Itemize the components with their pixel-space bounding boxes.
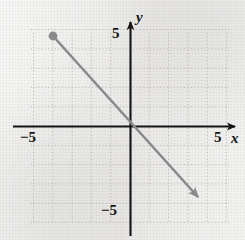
ray-segment bbox=[53, 36, 198, 197]
y-axis-tick-label-negative-5: −5 bbox=[101, 203, 117, 218]
x-axis-name-label: x bbox=[231, 131, 239, 146]
coordinate-plane bbox=[0, 0, 245, 240]
x-axis-tick-label-5: 5 bbox=[214, 130, 222, 145]
graph-figure: 5 y −5 5 x −5 bbox=[0, 0, 245, 240]
y-axis-name-label: y bbox=[136, 10, 143, 25]
closed-endpoint-dot bbox=[49, 32, 58, 41]
y-axis-tick-label-5: 5 bbox=[112, 26, 120, 41]
x-axis-tick-label-negative-5: −5 bbox=[20, 130, 36, 145]
